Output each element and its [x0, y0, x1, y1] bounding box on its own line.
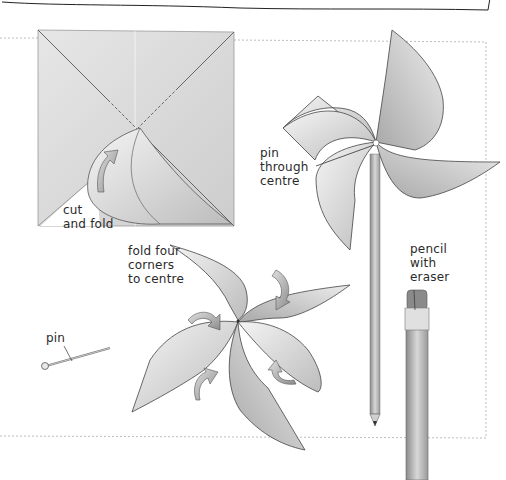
- label-cut-and-fold: cut and fold: [63, 203, 114, 231]
- caption-box-border: [2, 0, 490, 10]
- pencil-with-eraser: [405, 290, 429, 480]
- paper-square: [38, 30, 234, 228]
- label-pin-through-centre: pin through centre: [260, 146, 309, 188]
- label-fold-four-corners: fold four corners to centre: [128, 244, 184, 286]
- label-pin: pin: [46, 331, 65, 345]
- pinwheel-instructions-figure: cut and fold fold four corners to centre…: [0, 0, 506, 480]
- illustration-canvas: [0, 0, 506, 480]
- pin-drawing: [42, 346, 111, 370]
- label-pencil-with-eraser: pencil with eraser: [410, 242, 449, 284]
